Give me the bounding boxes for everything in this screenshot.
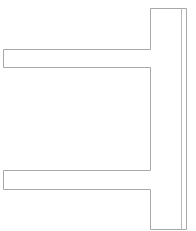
bracket-outline	[4, 9, 187, 230]
bracket-diagram	[0, 0, 196, 231]
